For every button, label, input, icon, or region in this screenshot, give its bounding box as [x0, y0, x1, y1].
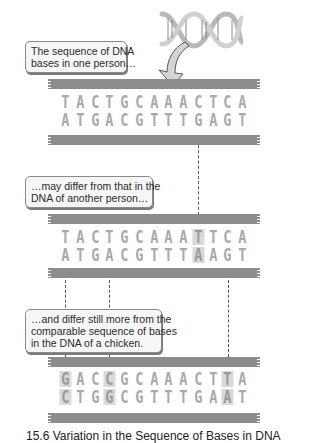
base-row-top: TACTGCAAACTCA [58, 94, 250, 110]
callout-line: DNA of another person… [31, 192, 147, 204]
dna-base: A [59, 112, 71, 128]
dna-base: A [104, 247, 116, 263]
dna-base: T [178, 112, 190, 128]
dna-base: T [104, 229, 116, 245]
dna-base: G [119, 371, 131, 387]
dna-base: A [104, 112, 116, 128]
dna-base: T [148, 112, 160, 128]
dna-base: A [237, 371, 249, 387]
callout-one-person: The sequence of DNA bases in one person… [25, 41, 127, 73]
dna-base: T [148, 389, 160, 405]
dna-base: T [222, 371, 234, 387]
dna-base: C [192, 94, 204, 110]
callout-line: …may differ from that in the [31, 180, 147, 192]
dna-strand-top [51, 214, 257, 224]
dna-base: G [119, 94, 131, 110]
dna-base: A [237, 229, 249, 245]
dna-base: A [207, 389, 219, 405]
dna-base: G [133, 247, 145, 263]
dna-base: C [89, 229, 101, 245]
dna-base: C [89, 94, 101, 110]
dna-base: T [59, 94, 71, 110]
dashed-connector-line [198, 140, 199, 215]
dna-base: G [133, 389, 145, 405]
dna-base: A [163, 94, 175, 110]
dna-strand-top [51, 357, 257, 367]
dna-strand-bottom [51, 268, 257, 278]
dna-base: A [192, 247, 204, 263]
dna-base: G [222, 112, 234, 128]
dna-strand-bottom [51, 413, 257, 423]
dna-base: T [192, 229, 204, 245]
dna-base: A [163, 371, 175, 387]
dna-base: C [119, 112, 131, 128]
dna-base: C [222, 229, 234, 245]
dna-base: T [207, 94, 219, 110]
dna-base: C [133, 94, 145, 110]
callout-line: bases in one person… [31, 57, 121, 69]
dna-base: G [89, 112, 101, 128]
dna-base: T [237, 247, 249, 263]
base-row-bottom: CTGGCGTTTGAAT [58, 389, 250, 405]
callout-line: comparable sequence of bases [31, 325, 156, 337]
dna-base: A [207, 112, 219, 128]
dna-base: A [178, 229, 190, 245]
dna-base: A [207, 247, 219, 263]
dna-base: C [222, 94, 234, 110]
dna-base: G [119, 229, 131, 245]
callout-another-person: …may differ from that in the DNA of anot… [25, 176, 153, 208]
dna-base: A [74, 371, 86, 387]
dna-base: T [104, 94, 116, 110]
dna-base: C [133, 371, 145, 387]
dna-base: A [148, 371, 160, 387]
figure-caption: 15.6 Variation in the Sequence of Bases … [26, 429, 281, 443]
dna-base: C [59, 389, 71, 405]
dna-base: A [148, 229, 160, 245]
dna-base: T [74, 247, 86, 263]
dna-base: G [133, 112, 145, 128]
dna-base: A [178, 371, 190, 387]
dna-base: A [59, 247, 71, 263]
dna-base: T [178, 389, 190, 405]
dna-base: A [74, 94, 86, 110]
dna-base: C [119, 247, 131, 263]
dashed-connector-line [228, 275, 229, 357]
dna-base: A [178, 94, 190, 110]
dna-base: C [192, 371, 204, 387]
dna-strand-top [51, 79, 257, 89]
dna-base: A [237, 94, 249, 110]
dna-base: A [148, 94, 160, 110]
dna-base: C [133, 229, 145, 245]
dna-base: T [207, 371, 219, 387]
base-row-top: GACCGCAAACTTA [58, 371, 250, 387]
dna-base: T [148, 247, 160, 263]
dna-base: T [207, 229, 219, 245]
dna-base: A [74, 229, 86, 245]
dna-base: G [104, 389, 116, 405]
dna-base: T [59, 229, 71, 245]
callout-line: in the DNA of a chicken. [31, 337, 156, 349]
dna-base: T [163, 247, 175, 263]
dna-base: A [222, 389, 234, 405]
base-row-bottom: ATGACGTTTGAGT [58, 112, 250, 128]
dna-base: G [222, 247, 234, 263]
dna-strand-bottom [51, 135, 257, 145]
dna-base: T [163, 112, 175, 128]
callout-line: …and differ still more from the [31, 313, 156, 325]
dna-base: T [74, 389, 86, 405]
dna-base: T [163, 389, 175, 405]
callout-chicken: …and differ still more from the comparab… [25, 309, 162, 353]
dna-base: G [89, 247, 101, 263]
dna-base: G [192, 112, 204, 128]
dna-base: C [104, 371, 116, 387]
base-row-top: TACTGCAAATTCA [58, 229, 250, 245]
dna-base: T [178, 247, 190, 263]
dna-base: C [119, 389, 131, 405]
dna-base: C [89, 371, 101, 387]
dna-base: A [163, 229, 175, 245]
dna-base: G [192, 389, 204, 405]
dna-base: G [89, 389, 101, 405]
dna-base: T [237, 389, 249, 405]
dna-base: G [59, 371, 71, 387]
callout-line: The sequence of DNA [31, 45, 121, 57]
